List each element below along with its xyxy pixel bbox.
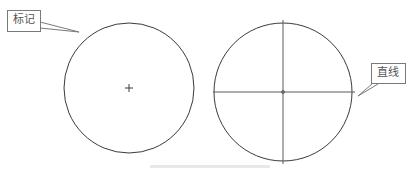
figure-caption [150,162,270,170]
left-callout-pointer [40,22,79,32]
right-callout-pointer [358,84,378,96]
figure-canvas [0,0,413,173]
figure-caption-text [150,165,270,168]
right-callout-label: 直线 [371,63,406,84]
center-mark-icon [125,84,133,92]
left-callout-label: 标记 [7,10,41,32]
